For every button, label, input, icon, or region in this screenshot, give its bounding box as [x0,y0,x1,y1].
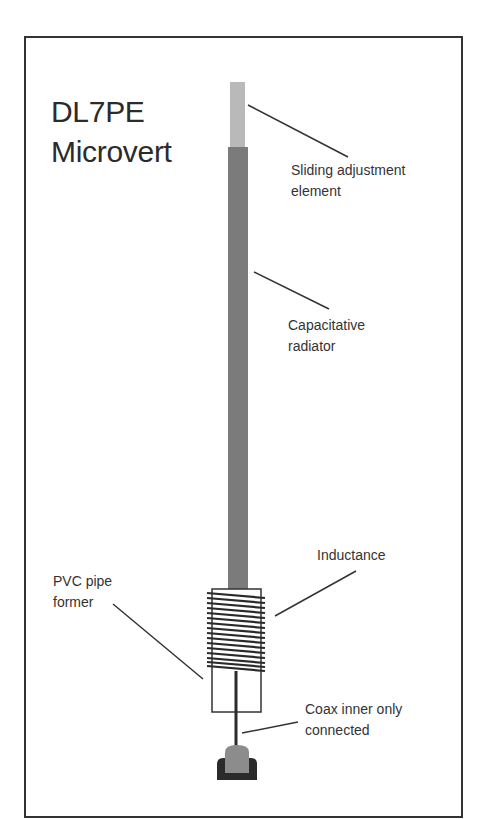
label-text: former [53,592,112,613]
leader-sliding [248,105,348,157]
label-text: connected [305,720,402,741]
label-inductance: Inductance [317,545,386,566]
label-text: Capacitative [288,315,365,336]
label-text: element [291,181,405,202]
leader-pvc [113,604,203,679]
leader-coax [242,722,298,733]
antenna-diagram: DL7PE Microvert [0,0,483,819]
label-text: Sliding adjustment [291,160,405,181]
label-text: Inductance [317,545,386,566]
label-text: radiator [288,336,365,357]
leader-inductance [275,571,356,616]
leader-capacitative [254,272,329,309]
label-pvc-pipe-former: PVC pipe former [53,571,112,613]
label-coax-inner: Coax inner only connected [305,699,402,741]
connector-body [225,745,249,773]
label-sliding-adjustment: Sliding adjustment element [291,160,405,202]
capacitative-radiator [228,147,248,589]
label-text: PVC pipe [53,571,112,592]
label-text: Coax inner only [305,699,402,720]
antenna-drawing [0,0,483,819]
sliding-adjustment-element [230,82,245,148]
label-capacitative-radiator: Capacitative radiator [288,315,365,357]
